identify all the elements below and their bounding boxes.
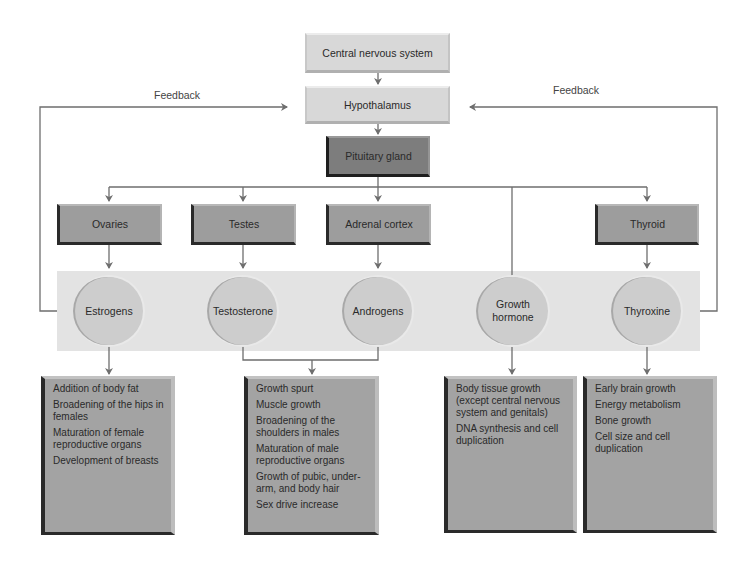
pituitary-label: Pituitary gland <box>345 150 412 162</box>
hormone-label: Growth hormone <box>488 298 538 324</box>
hormone-label: Estrogens <box>85 305 132 318</box>
gland-thyroid: Thyroid <box>595 204 699 245</box>
effect-item: Addition of body fat <box>53 383 165 395</box>
hormone-thyroxine: Thyroxine <box>613 277 681 345</box>
gland-ovaries: Ovaries <box>57 204 162 245</box>
effects-testosterone-androgens: Growth spurt Muscle growth Broadening of… <box>244 376 379 535</box>
hormone-estrogens: Estrogens <box>75 277 143 345</box>
effects-list: Addition of body fat Broadening of the h… <box>53 383 165 467</box>
hormone-testosterone: Testosterone <box>209 277 277 345</box>
effect-item: Growth spurt <box>256 383 369 395</box>
cns-box: Central nervous system <box>305 33 450 73</box>
hormone-label: Testosterone <box>213 305 273 318</box>
effect-item: Growth of pubic, under-arm, and body hai… <box>256 471 369 495</box>
effect-item: Sex drive increase <box>256 499 369 511</box>
gland-label: Adrenal cortex <box>345 218 413 230</box>
effect-item: Cell size and cell duplication <box>595 431 707 455</box>
effects-growth-hormone: Body tissue growth (except central nervo… <box>444 376 577 533</box>
effect-item: Energy metabolism <box>595 399 707 411</box>
gland-label: Testes <box>229 218 259 230</box>
effects-list: Early brain growth Energy metabolism Bon… <box>595 383 707 455</box>
hypothalamus-box: Hypothalamus <box>305 86 450 124</box>
gland-testes: Testes <box>191 204 296 245</box>
effects-thyroxine: Early brain growth Energy metabolism Bon… <box>583 376 717 533</box>
effects-list: Body tissue growth (except central nervo… <box>456 383 567 447</box>
effect-item: Broadening of the shoulders in males <box>256 415 369 439</box>
feedback-label-right: Feedback <box>553 84 599 96</box>
effect-item: Body tissue growth (except central nervo… <box>456 383 567 419</box>
effect-item: DNA synthesis and cell duplication <box>456 423 567 447</box>
effect-item: Broadening of the hips in females <box>53 399 165 423</box>
endocrine-diagram: Feedback Feedback Central nervous system… <box>0 0 750 562</box>
effects-estrogens: Addition of body fat Broadening of the h… <box>41 376 175 535</box>
hormone-growth-hormone: Growth hormone <box>478 277 548 345</box>
effect-item: Early brain growth <box>595 383 707 395</box>
feedback-label-left: Feedback <box>154 89 200 101</box>
effect-item: Maturation of female reproductive organs <box>53 427 165 451</box>
gland-label: Thyroid <box>630 218 665 230</box>
effect-item: Bone growth <box>595 415 707 427</box>
hormone-label: Thyroxine <box>624 305 670 318</box>
effect-item: Development of breasts <box>53 455 165 467</box>
gland-label: Ovaries <box>92 218 128 230</box>
effect-item: Muscle growth <box>256 399 369 411</box>
hormone-label: Androgens <box>353 305 404 318</box>
hypothalamus-label: Hypothalamus <box>344 99 411 111</box>
effect-item: Maturation of male reproductive organs <box>256 443 369 467</box>
cns-label: Central nervous system <box>322 47 432 59</box>
effects-list: Growth spurt Muscle growth Broadening of… <box>256 383 369 511</box>
pituitary-box: Pituitary gland <box>326 136 430 177</box>
gland-adrenal-cortex: Adrenal cortex <box>326 204 431 245</box>
hormone-androgens: Androgens <box>344 277 412 345</box>
